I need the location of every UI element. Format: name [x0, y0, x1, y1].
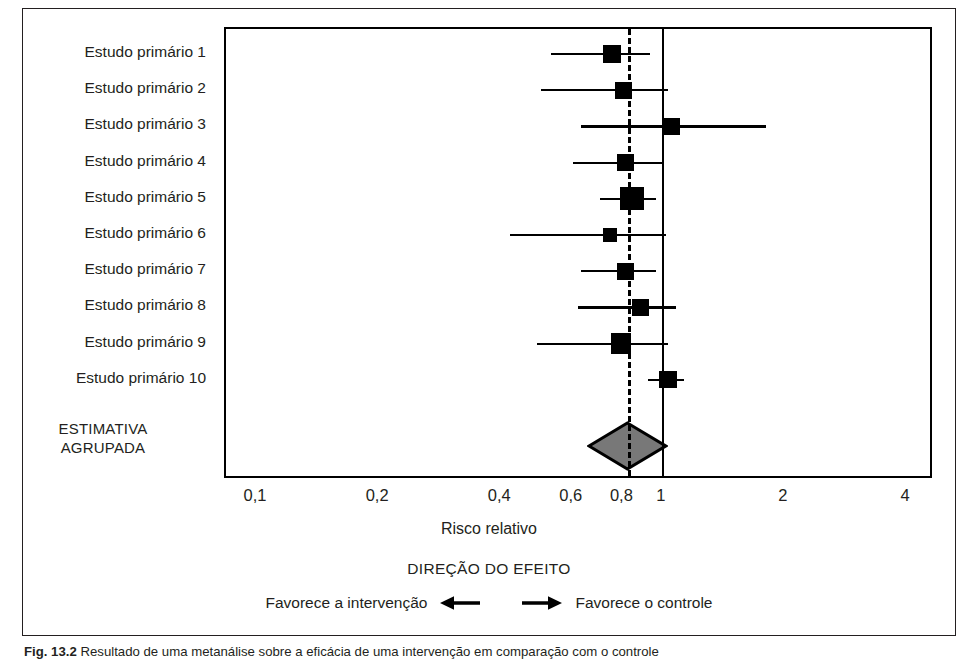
study-label: Estudo primário 5 — [0, 189, 206, 205]
pooled-label-line1: ESTIMATIVA — [0, 419, 206, 438]
study-label: Estudo primário 10 — [0, 370, 206, 386]
study-label: Estudo primário 2 — [0, 80, 206, 96]
point-estimate-marker — [620, 187, 643, 210]
figure-caption: Fig. 13.2 Resultado de uma metanálise so… — [24, 643, 954, 661]
forest-plot-canvas — [226, 29, 930, 476]
study-label: Estudo primário 4 — [0, 153, 206, 169]
confidence-interval-line — [510, 234, 666, 236]
x-axis-title: Risco relativo — [0, 520, 978, 538]
study-label: Estudo primário 9 — [0, 334, 206, 350]
point-estimate-marker — [617, 154, 634, 171]
study-label: Estudo primário 1 — [0, 44, 206, 60]
study-label: Estudo primário 8 — [0, 297, 206, 313]
study-label-column: Estudo primário 1Estudo primário 2Estudo… — [0, 27, 206, 479]
x-axis-tick-label: 2 — [778, 486, 787, 505]
point-estimate-marker — [632, 299, 649, 316]
null-effect-reference-line — [662, 29, 664, 476]
point-estimate-marker — [603, 228, 617, 242]
confidence-interval-line — [551, 53, 650, 55]
confidence-interval-line — [537, 343, 668, 345]
confidence-interval-line — [541, 89, 668, 91]
x-axis-tick-label: 1 — [656, 486, 665, 505]
pooled-estimate-label: ESTIMATIVAAGRUPADA — [0, 419, 206, 457]
direction-of-effect-legend: Favorece a intervenção Favorece o contro… — [0, 594, 978, 612]
point-estimate-marker — [603, 45, 620, 62]
figure-page: Estudo primário 1Estudo primário 2Estudo… — [0, 0, 978, 661]
study-label: Estudo primário 3 — [0, 116, 206, 132]
direction-of-effect-title: DIREÇÃO DO EFEITO — [0, 560, 978, 578]
pooled-estimate-reference-line — [628, 29, 631, 476]
study-label: Estudo primário 6 — [0, 225, 206, 241]
point-estimate-marker — [663, 118, 680, 135]
arrow-right-icon — [522, 595, 562, 611]
x-axis-tick-label: 0,2 — [366, 486, 389, 505]
figure-caption-id: Fig. 13.2 — [24, 644, 77, 659]
favors-intervention-label: Favorece a intervenção — [266, 594, 428, 612]
forest-plot-frame — [224, 27, 932, 478]
x-axis-tick-label: 0,8 — [610, 486, 633, 505]
x-axis-tick-label: 0,1 — [244, 486, 267, 505]
arrow-left-icon — [440, 595, 480, 611]
x-axis-tick-label: 4 — [900, 486, 909, 505]
figure-caption-text: Resultado de uma metanálise sobre a efic… — [80, 644, 658, 659]
point-estimate-marker — [617, 263, 634, 280]
x-axis-tick-label: 0,4 — [488, 486, 511, 505]
x-axis-tick-label: 0,6 — [559, 486, 582, 505]
favors-control-label: Favorece o controle — [575, 594, 712, 612]
study-label: Estudo primário 7 — [0, 261, 206, 277]
pooled-label-line2: AGRUPADA — [0, 438, 206, 457]
